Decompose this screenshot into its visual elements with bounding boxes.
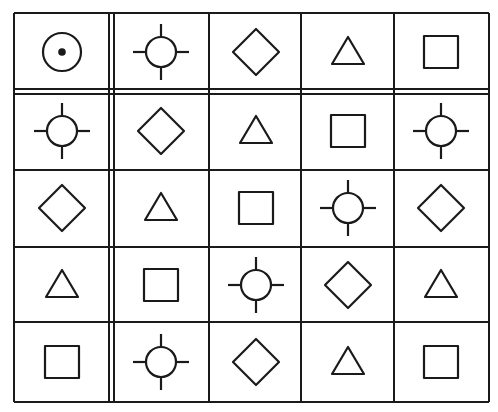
square-icon: [239, 192, 273, 224]
grid-cell: [424, 36, 458, 68]
grid-cell: [425, 270, 457, 297]
grid-cell: [39, 185, 85, 231]
crosshair-icon: [34, 103, 90, 159]
triangle-icon: [332, 347, 364, 374]
grid-cell: [240, 116, 272, 143]
grid-cell: [133, 24, 189, 80]
grid-cell: [413, 103, 469, 159]
grid-cell: [138, 108, 184, 154]
grid-cell: [424, 346, 458, 378]
grid-cell: [43, 33, 81, 71]
grid-cell: [228, 257, 284, 313]
shape-grid-diagram: [0, 0, 498, 412]
diamond-icon: [233, 339, 279, 385]
circle-dot-icon: [43, 33, 81, 71]
crosshair-icon: [320, 180, 376, 236]
crosshair-icon: [413, 103, 469, 159]
diamond-icon: [233, 29, 279, 75]
diamond-icon: [39, 185, 85, 231]
grid-cell: [45, 346, 79, 378]
square-icon: [424, 36, 458, 68]
square-icon: [144, 269, 178, 301]
grid-cell: [133, 334, 189, 390]
diamond-icon: [418, 185, 464, 231]
triangle-icon: [332, 37, 364, 64]
crosshair-icon: [228, 257, 284, 313]
square-icon: [45, 346, 79, 378]
square-icon: [331, 115, 365, 147]
crosshair-icon: [133, 24, 189, 80]
triangle-icon: [46, 270, 78, 297]
triangle-icon: [425, 270, 457, 297]
square-icon: [424, 346, 458, 378]
triangle-icon: [145, 193, 177, 220]
grid-cell: [325, 262, 371, 308]
grid-cell: [332, 37, 364, 64]
grid-cell: [331, 115, 365, 147]
diamond-icon: [325, 262, 371, 308]
diamond-icon: [138, 108, 184, 154]
grid-cell: [46, 270, 78, 297]
grid-cell: [144, 269, 178, 301]
grid-cell: [239, 192, 273, 224]
grid-cell: [34, 103, 90, 159]
crosshair-icon: [133, 334, 189, 390]
grid-cell: [320, 180, 376, 236]
grid-cell: [145, 193, 177, 220]
grid-cell: [332, 347, 364, 374]
grid-cells: [34, 24, 469, 390]
grid-cell: [233, 29, 279, 75]
triangle-icon: [240, 116, 272, 143]
grid-cell: [233, 339, 279, 385]
grid-cell: [418, 185, 464, 231]
